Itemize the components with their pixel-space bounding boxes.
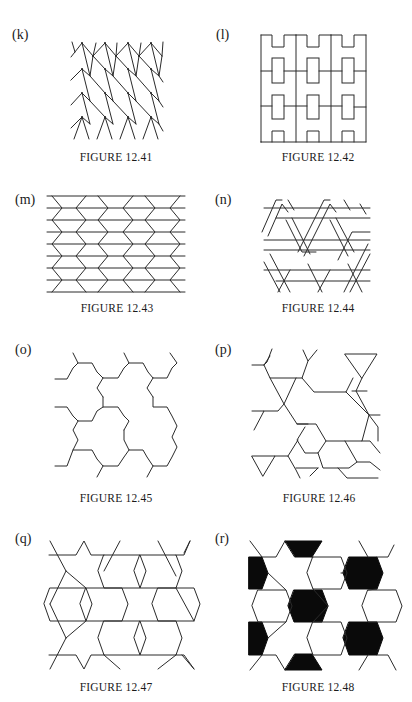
caption-figure-12-48: FIGURE 12.48 (238, 681, 398, 693)
figure-12-48-shaded-hexagram-tiling (0, 0, 412, 702)
caption-figure-12-47: FIGURE 12.47 (36, 681, 196, 693)
